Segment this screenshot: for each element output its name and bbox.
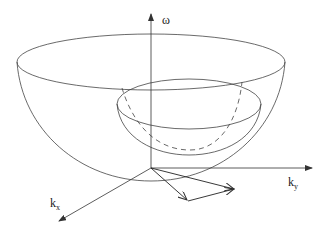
vector-k2 — [188, 189, 234, 201]
kx-axis — [59, 168, 151, 221]
inner-rim — [117, 79, 261, 129]
inner-bowl — [117, 104, 261, 155]
inner-hidden-contour — [122, 82, 242, 150]
omega-label: ω — [162, 13, 170, 27]
inner-paraboloid — [117, 79, 261, 155]
dispersion-diagram: ω ky kx — [0, 0, 319, 236]
axes — [59, 14, 312, 221]
kx-label: kx — [50, 196, 60, 212]
wavevectors — [151, 168, 234, 201]
ky-label: ky — [288, 175, 298, 191]
